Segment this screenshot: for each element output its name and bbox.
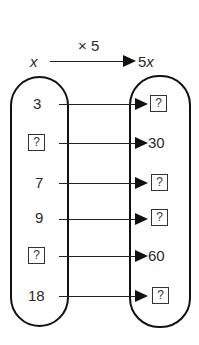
arrow-head-icon bbox=[135, 213, 148, 225]
operation-label: × 5 bbox=[78, 38, 99, 54]
arrow-head-icon bbox=[135, 177, 148, 189]
input-value: 3 bbox=[33, 96, 41, 112]
mapping-arrow-line bbox=[59, 219, 139, 220]
input-value: 18 bbox=[28, 288, 45, 304]
output-answer-box[interactable]: ? bbox=[151, 209, 168, 226]
arrow-head-icon bbox=[135, 250, 148, 262]
mapping-arrow-line bbox=[59, 143, 139, 144]
output-answer-box[interactable]: ? bbox=[151, 174, 168, 191]
output-expression-text: 5x bbox=[138, 53, 154, 70]
output-answer-box[interactable]: ? bbox=[152, 287, 169, 304]
input-answer-box[interactable]: ? bbox=[28, 247, 45, 264]
mapping-arrow-line bbox=[59, 183, 139, 184]
output-value: 30 bbox=[148, 135, 165, 151]
output-expression-label: 5x bbox=[138, 54, 154, 70]
arrow-head-icon bbox=[135, 98, 148, 110]
arrow-head-icon bbox=[123, 55, 136, 67]
mapping-arrow-line bbox=[59, 296, 139, 297]
input-answer-box[interactable]: ? bbox=[28, 134, 45, 151]
arrow-head-icon bbox=[135, 137, 148, 149]
input-variable-label: x bbox=[30, 54, 38, 70]
output-variable-label: x bbox=[146, 53, 154, 70]
output-value: 60 bbox=[148, 248, 165, 264]
input-value: 9 bbox=[35, 210, 43, 226]
arrow-head-icon bbox=[135, 290, 148, 302]
mapping-arrow-line bbox=[59, 104, 139, 105]
header-arrow-line bbox=[50, 61, 126, 62]
output-answer-box[interactable]: ? bbox=[150, 95, 167, 112]
mapping-arrow-line bbox=[59, 256, 139, 257]
input-value: 7 bbox=[35, 175, 43, 191]
